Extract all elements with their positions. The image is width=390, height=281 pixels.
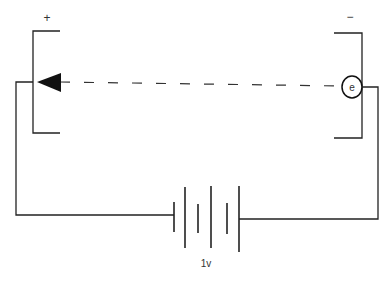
battery-icon: [174, 186, 239, 252]
electron-path-dashed-line: [60, 82, 342, 86]
negative-plate-label: −: [346, 10, 353, 24]
circuit-diagram: + − e 1v: [0, 0, 390, 281]
left-wire: [16, 82, 174, 215]
battery-voltage-label: 1v: [201, 258, 212, 269]
arrowhead-icon: [37, 73, 61, 92]
electron-label: e: [349, 82, 355, 93]
positive-plate-label: +: [43, 11, 50, 25]
right-wire: [239, 87, 378, 219]
